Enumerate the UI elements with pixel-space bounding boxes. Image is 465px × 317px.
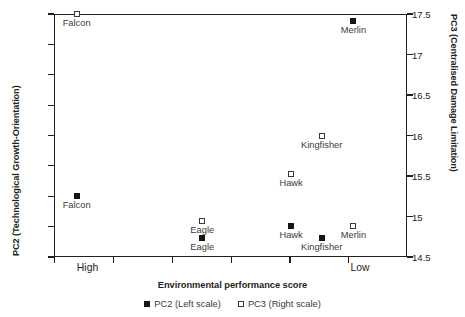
data-point-marker[interactable] bbox=[350, 223, 356, 229]
y-axis-right-tick-label: 16.5 bbox=[412, 90, 452, 101]
x-axis-tick-mark bbox=[231, 257, 232, 263]
legend-entry[interactable]: PC3 (Right scale) bbox=[238, 299, 321, 309]
y-axis-left-tick-mark bbox=[48, 74, 54, 75]
data-point-marker[interactable] bbox=[319, 133, 325, 139]
x-axis-category-label: High bbox=[77, 262, 98, 273]
y-axis-right-tick-mark bbox=[407, 54, 413, 55]
y-axis-right-tick-label: 17.5 bbox=[412, 9, 452, 20]
data-point-label: Merlin bbox=[341, 25, 366, 35]
x-axis-title: Environmental performance score bbox=[0, 280, 465, 290]
y-axis-right-tick-label: 15.5 bbox=[412, 171, 452, 182]
y-axis-left-tick-mark bbox=[48, 44, 54, 45]
data-point-label: Hawk bbox=[279, 178, 302, 188]
y-axis-right-tick-mark bbox=[407, 256, 413, 257]
y-axis-right-tick-mark bbox=[407, 13, 413, 14]
filled-square-icon bbox=[144, 301, 150, 307]
data-point-marker[interactable] bbox=[350, 18, 356, 24]
x-axis-tick-mark bbox=[172, 257, 173, 263]
data-point-label: Kingfisher bbox=[301, 140, 342, 150]
data-point-label: Eagle bbox=[190, 225, 214, 235]
data-point-marker[interactable] bbox=[288, 223, 294, 229]
x-axis-tick-mark bbox=[54, 257, 55, 263]
y-axis-left-tick-mark bbox=[48, 165, 54, 166]
open-square-icon bbox=[238, 301, 244, 307]
data-point-marker[interactable] bbox=[288, 171, 294, 177]
scatter-chart-figure: PC2 (Technological Growth-Orientation) P… bbox=[0, 0, 465, 317]
y-axis-right-tick-label: 14.5 bbox=[412, 252, 452, 263]
x-axis-tick-mark bbox=[113, 257, 114, 263]
legend-label: PC2 (Left scale) bbox=[154, 299, 221, 309]
x-axis-category-label: Low bbox=[350, 262, 369, 273]
y-axis-left-title: PC2 (Technological Growth-Orientation) bbox=[11, 85, 21, 256]
data-point-label: Merlin bbox=[341, 230, 366, 240]
data-point-marker[interactable] bbox=[199, 235, 205, 241]
data-point-label: Hawk bbox=[279, 230, 302, 240]
data-point-label: Eagle bbox=[190, 242, 214, 252]
y-axis-left-tick-mark bbox=[48, 196, 54, 197]
y-axis-right-tick-label: 16 bbox=[412, 130, 452, 141]
plot-area bbox=[54, 14, 407, 257]
y-axis-left-tick-mark bbox=[48, 105, 54, 106]
data-point-marker[interactable] bbox=[74, 11, 80, 17]
x-axis-tick-mark bbox=[348, 257, 349, 263]
y-axis-left-tick-mark bbox=[48, 226, 54, 227]
data-point-label: Falcon bbox=[63, 200, 91, 210]
y-axis-right-tick-mark bbox=[407, 175, 413, 176]
y-axis-left-tick-mark bbox=[48, 13, 54, 14]
data-point-label: Falcon bbox=[63, 18, 91, 28]
legend-entry[interactable]: PC2 (Left scale) bbox=[144, 299, 221, 309]
y-axis-right-tick-mark bbox=[407, 94, 413, 95]
data-point-marker[interactable] bbox=[74, 193, 80, 199]
data-point-label: Kingfisher bbox=[301, 242, 342, 252]
y-axis-left-tick-mark bbox=[48, 135, 54, 136]
y-axis-right-tick-mark bbox=[407, 216, 413, 217]
y-axis-right-tick-label: 17 bbox=[412, 49, 452, 60]
y-axis-right-tick-label: 15 bbox=[412, 211, 452, 222]
legend-label: PC3 (Right scale) bbox=[248, 299, 321, 309]
data-point-marker[interactable] bbox=[319, 235, 325, 241]
x-axis-tick-mark bbox=[289, 257, 290, 263]
data-point-marker[interactable] bbox=[199, 218, 205, 224]
y-axis-right-tick-mark bbox=[407, 135, 413, 136]
chart-legend: PC2 (Left scale)PC3 (Right scale) bbox=[0, 299, 465, 309]
